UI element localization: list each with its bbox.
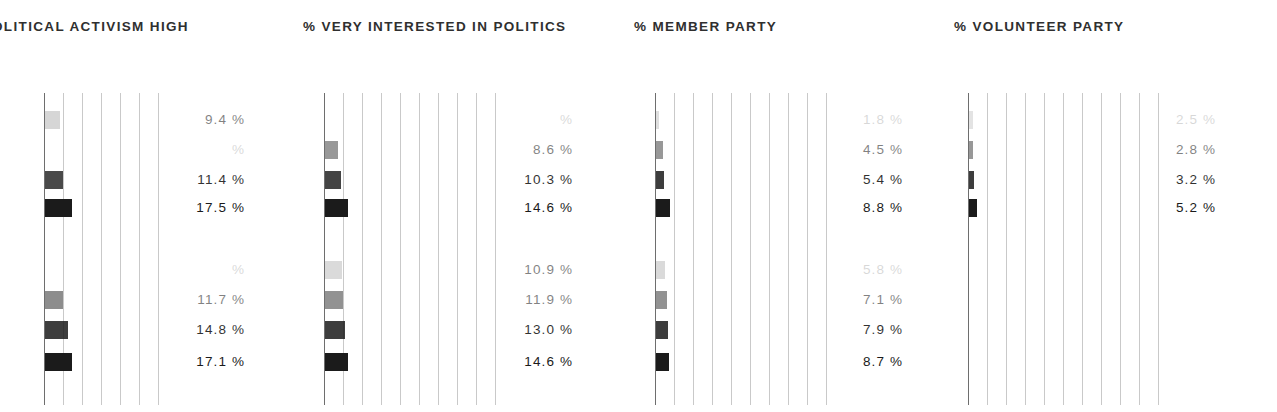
panel-title-member-party: % MEMBER PARTY [634, 19, 777, 34]
bar [969, 171, 974, 189]
value-label: 8.7 % [813, 354, 903, 369]
value-label: 5.8 % [813, 262, 903, 277]
bar [656, 321, 668, 339]
bar [325, 199, 348, 217]
bar [969, 111, 973, 129]
bar-chart-figure: OLITICAL ACTIVISM HIGH9.4 %%11.4 %17.5 %… [0, 0, 1277, 412]
value-label: % [155, 142, 245, 157]
panel-title-very-interested-in-politics: % VERY INTERESTED IN POLITICS [303, 19, 566, 34]
value-label: 11.9 % [483, 292, 573, 307]
value-label: 11.7 % [155, 292, 245, 307]
value-labels-volunteer-party: 2.5 %2.8 %3.2 %5.2 % [1126, 93, 1216, 405]
bar [325, 261, 342, 279]
value-label: 14.8 % [155, 322, 245, 337]
bar [656, 291, 667, 309]
panel-title-volunteer-party: % VOLUNTEER PARTY [954, 19, 1124, 34]
bar [45, 353, 72, 371]
bar [325, 141, 338, 159]
value-label: 7.1 % [813, 292, 903, 307]
value-label: 3.2 % [1126, 172, 1216, 187]
value-label: 8.6 % [483, 142, 573, 157]
bar [656, 171, 664, 189]
value-label: 9.4 % [155, 112, 245, 127]
value-labels-very-interested-in-politics: %8.6 %10.3 %14.6 %10.9 %11.9 %13.0 %14.6… [483, 93, 573, 405]
bar [325, 171, 341, 189]
bar [656, 141, 663, 159]
panel-political-activism-high: OLITICAL ACTIVISM HIGH9.4 %%11.4 %17.5 %… [0, 0, 172, 412]
value-label: 13.0 % [483, 322, 573, 337]
bar [45, 291, 63, 309]
panel-volunteer-party: % VOLUNTEER PARTY2.5 %2.8 %3.2 %5.2 % [966, 0, 1166, 412]
bars-political-activism-high [0, 93, 172, 405]
panel-very-interested-in-politics: % VERY INTERESTED IN POLITICS%8.6 %10.3 … [322, 0, 512, 412]
value-label: % [155, 262, 245, 277]
bar [45, 321, 68, 339]
value-label: 7.9 % [813, 322, 903, 337]
value-label: 5.4 % [813, 172, 903, 187]
value-label: 5.2 % [1126, 200, 1216, 215]
plot-area-political-activism-high [0, 93, 172, 405]
bar [325, 353, 348, 371]
value-label: 2.5 % [1126, 112, 1216, 127]
value-label: 10.9 % [483, 262, 573, 277]
value-label: 11.4 % [155, 172, 245, 187]
bar [325, 291, 343, 309]
value-label: 14.6 % [483, 354, 573, 369]
bar [656, 353, 669, 371]
bar [45, 171, 63, 189]
panel-member-party: % MEMBER PARTY1.8 %4.5 %5.4 %8.8 %5.8 %7… [653, 0, 843, 412]
value-labels-political-activism-high: 9.4 %%11.4 %17.5 %%11.7 %14.8 %17.1 % [155, 93, 245, 405]
bar [45, 199, 72, 217]
value-labels-member-party: 1.8 %4.5 %5.4 %8.8 %5.8 %7.1 %7.9 %8.7 % [813, 93, 903, 405]
value-label: 2.8 % [1126, 142, 1216, 157]
value-label: % [483, 112, 573, 127]
value-label: 14.6 % [483, 200, 573, 215]
bar [969, 199, 977, 217]
bar [969, 141, 973, 159]
value-label: 17.5 % [155, 200, 245, 215]
bar [656, 261, 665, 279]
bar [325, 321, 345, 339]
bar [656, 199, 670, 217]
value-label: 17.1 % [155, 354, 245, 369]
value-label: 8.8 % [813, 200, 903, 215]
value-label: 4.5 % [813, 142, 903, 157]
bar [45, 111, 60, 129]
panel-title-political-activism-high: OLITICAL ACTIVISM HIGH [0, 19, 189, 34]
value-label: 1.8 % [813, 112, 903, 127]
value-label: 10.3 % [483, 172, 573, 187]
bar [656, 111, 659, 129]
